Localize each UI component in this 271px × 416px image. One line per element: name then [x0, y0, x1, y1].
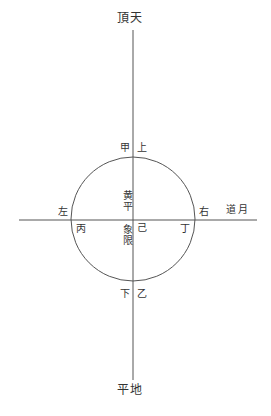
label-center-lower: 象限 [121, 224, 131, 246]
label-center-upper: 黄平 [121, 190, 131, 212]
horizon-quadrant-diagram: 頂天 平地 甲 上 黄平 象限 己 左 丙 丁 右 道月 下 乙 [0, 0, 271, 416]
label-left: 左 [58, 207, 68, 217]
label-bing: 丙 [76, 224, 86, 234]
label-horizon-ground: 平地 [117, 384, 143, 396]
label-xia: 下 [120, 289, 130, 299]
label-right: 右 [199, 207, 209, 217]
label-ding: 丁 [180, 224, 190, 234]
label-ecliptic: 道月 [226, 205, 250, 215]
label-shang: 上 [137, 143, 147, 153]
label-yi: 乙 [137, 289, 147, 299]
label-jia: 甲 [120, 143, 130, 153]
label-ji: 己 [137, 223, 147, 233]
label-zenith: 頂天 [117, 12, 143, 24]
